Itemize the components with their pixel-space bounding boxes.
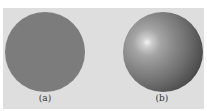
flat-shaded-sphere xyxy=(5,12,85,92)
caption-b: (b) xyxy=(147,93,177,103)
smooth-shaded-sphere xyxy=(123,12,203,92)
caption-a: (a) xyxy=(30,93,60,103)
figure-frame: (a) (b) xyxy=(0,0,207,111)
